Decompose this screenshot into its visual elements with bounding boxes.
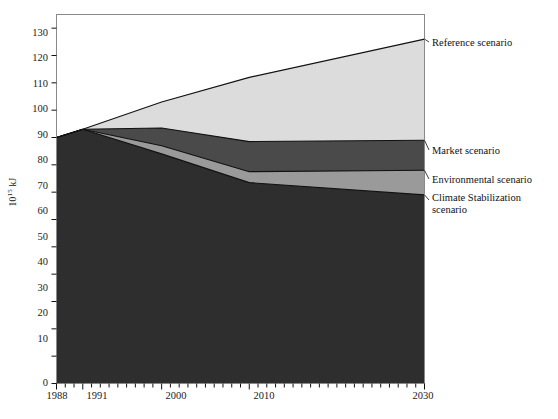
x-tick-label-2000: 2000 bbox=[153, 391, 199, 401]
legend-leader-3 bbox=[425, 195, 430, 200]
x-tick-label-2010: 2010 bbox=[241, 391, 287, 401]
y-tick-label-70: 70 bbox=[14, 181, 48, 191]
y-tick-label-130: 130 bbox=[14, 28, 48, 38]
x-tick-label-1991: 1991 bbox=[74, 391, 120, 401]
legend-leader-0 bbox=[425, 39, 430, 42]
legend-label-climate-line2: scenario bbox=[432, 204, 467, 216]
y-tick-label-80: 80 bbox=[14, 155, 48, 165]
y-tick-label-10: 10 bbox=[14, 334, 48, 344]
legend-leader-1 bbox=[425, 140, 430, 150]
chart-plot-area bbox=[0, 0, 558, 419]
y-tick-label-110: 110 bbox=[14, 79, 48, 89]
y-tick-label-30: 30 bbox=[14, 283, 48, 293]
y-tick-label-0: 0 bbox=[14, 378, 48, 388]
y-tick-label-90: 90 bbox=[14, 130, 48, 140]
stacked-area-chart-figure: 1015 kJ 130 120 110 100 90 80 70 60 50 4… bbox=[0, 0, 558, 419]
y-tick-label-50: 50 bbox=[14, 232, 48, 242]
y-tick-label-20: 20 bbox=[14, 308, 48, 318]
y-tick-label-120: 120 bbox=[14, 53, 48, 63]
y-tick-label-60: 60 bbox=[14, 206, 48, 216]
legend-label-climate-line1: Climate Stabilization bbox=[432, 192, 521, 204]
y-tick-label-100: 100 bbox=[14, 104, 48, 114]
y-axis-title-mantissa: 10 bbox=[8, 197, 18, 207]
legend-label-environmental: Environmental scenario bbox=[432, 174, 532, 186]
legend-label-reference: Reference scenario bbox=[432, 37, 512, 49]
legend-label-market: Market scenario bbox=[432, 145, 500, 157]
legend-leader-2 bbox=[425, 170, 430, 179]
x-tick-label-2030: 2030 bbox=[400, 391, 446, 401]
y-tick-label-40: 40 bbox=[14, 257, 48, 267]
y-axis-title-exponent: 15 bbox=[6, 189, 14, 196]
